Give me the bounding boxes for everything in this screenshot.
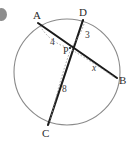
figure-canvas: A D B C P 4 3 8 x bbox=[0, 0, 140, 147]
point-label-d: D bbox=[79, 7, 87, 18]
point-label-p: P bbox=[63, 46, 69, 56]
point-label-a: A bbox=[33, 10, 41, 21]
circle-outline bbox=[14, 19, 120, 125]
segment-label-cp: 8 bbox=[62, 85, 67, 95]
segment-label-ap: 4 bbox=[50, 38, 55, 48]
point-p-marker bbox=[69, 47, 71, 49]
point-label-b: B bbox=[119, 75, 126, 86]
segment-label-pb: x bbox=[92, 64, 96, 74]
chord-dc bbox=[48, 20, 83, 125]
point-label-c: C bbox=[42, 128, 49, 139]
segment-label-dp: 3 bbox=[85, 31, 90, 41]
chord-ab bbox=[38, 23, 117, 78]
